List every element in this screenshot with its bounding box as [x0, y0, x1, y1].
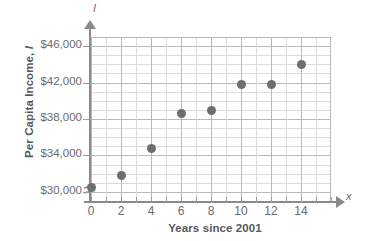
y-axis-tick — [83, 192, 90, 193]
gridline-vertical-minor — [136, 37, 137, 201]
y-axis-tick-label: $38,000 — [0, 111, 82, 123]
y-axis-tick-label: $30,000 — [0, 184, 82, 196]
x-axis-tick — [106, 197, 107, 203]
data-point — [267, 80, 276, 89]
y-axis-arrow-icon — [84, 20, 96, 29]
x-axis-tick — [331, 197, 332, 203]
x-axis-tick-label: 0 — [76, 204, 106, 218]
y-axis-tick — [83, 155, 90, 156]
x-axis-variable-label: x — [346, 190, 352, 202]
x-axis-arrow-icon — [336, 196, 345, 208]
y-axis-tick-label: $34,000 — [0, 147, 82, 159]
gridline-vertical-minor — [226, 37, 227, 201]
x-axis-title: Years since 2001 — [95, 222, 335, 234]
x-axis-tick — [181, 197, 182, 203]
gridline-vertical-major — [271, 37, 272, 201]
x-axis-tick — [241, 197, 242, 203]
data-point — [87, 183, 96, 192]
plot-border-right — [330, 37, 331, 201]
gridline-vertical-major — [151, 37, 152, 201]
y-axis-variable-label: I — [93, 2, 96, 14]
y-axis-tick-label: $42,000 — [0, 75, 82, 87]
scatter-plot-figure: I x $30,000$34,000$38,000$42,000$46,0000… — [0, 0, 366, 241]
x-axis-tick — [211, 197, 212, 203]
x-axis-tick — [136, 197, 137, 203]
x-axis-tick — [256, 197, 257, 203]
x-axis-tick — [196, 197, 197, 203]
x-axis-tick — [121, 197, 122, 203]
gridline-vertical-major — [211, 37, 212, 201]
x-axis-tick — [286, 197, 287, 203]
x-axis-tick-label: 4 — [136, 204, 166, 218]
plot-area — [91, 37, 331, 201]
x-axis-tick-label: 14 — [286, 204, 316, 218]
x-axis-tick — [316, 197, 317, 203]
y-axis-tick-label: $46,000 — [0, 38, 82, 50]
gridline-vertical-minor — [196, 37, 197, 201]
x-axis-tick-label: 10 — [226, 204, 256, 218]
y-axis-tick — [83, 83, 90, 84]
x-axis-tick-label: 2 — [106, 204, 136, 218]
gridline-vertical-major — [181, 37, 182, 201]
data-point — [207, 106, 216, 115]
gridline-vertical-minor — [256, 37, 257, 201]
data-point — [297, 60, 306, 69]
x-axis-tick — [166, 197, 167, 203]
x-axis-tick — [226, 197, 227, 203]
x-axis-tick — [91, 197, 92, 203]
gridline-vertical-minor — [316, 37, 317, 201]
data-point — [147, 144, 156, 153]
x-axis-tick — [271, 197, 272, 203]
data-point — [237, 80, 246, 89]
gridline-vertical-major — [91, 37, 92, 201]
y-axis-tick — [83, 46, 90, 47]
x-axis-tick-label: 6 — [166, 204, 196, 218]
x-axis-tick — [151, 197, 152, 203]
y-axis-title: Per Capita Income, I — [23, 27, 35, 177]
x-axis-tick-label: 12 — [256, 204, 286, 218]
gridline-vertical-minor — [106, 37, 107, 201]
y-axis-tick — [83, 119, 90, 120]
gridline-vertical-major — [241, 37, 242, 201]
y-axis-title-text: Per Capita Income, — [23, 49, 35, 158]
gridline-vertical-minor — [286, 37, 287, 201]
x-axis-tick-label: 8 — [196, 204, 226, 218]
plot-border-top — [91, 37, 331, 38]
x-axis-tick — [301, 197, 302, 203]
data-point — [117, 171, 126, 180]
y-axis-title-variable: I — [23, 46, 35, 49]
gridline-vertical-minor — [166, 37, 167, 201]
data-point — [177, 109, 186, 118]
